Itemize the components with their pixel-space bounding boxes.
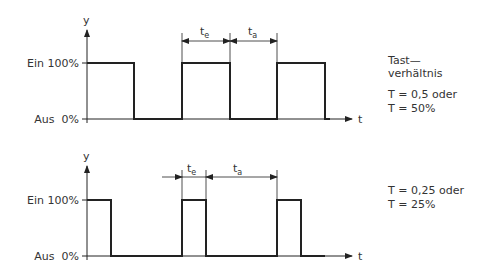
x-axis-label: t bbox=[358, 113, 363, 126]
pulse-diagrams: y t Ein 100% Aus 0% te ta y t Ein 100% A… bbox=[0, 0, 498, 274]
ta-label: ta bbox=[233, 162, 242, 177]
duty-cycle-bottom-line-1: T = 0,25 oder bbox=[388, 184, 464, 198]
y-low-label: Aus 0% bbox=[34, 113, 79, 126]
duty-cycle-top-line-1: T = 0,5 oder bbox=[388, 88, 457, 102]
chart-bottom: y t Ein 100% Aus 0% te ta bbox=[27, 150, 363, 263]
x-axis-label: t bbox=[358, 250, 363, 263]
y-axis-label: y bbox=[83, 150, 90, 163]
duty-cycle-bottom-line-2: T = 25% bbox=[388, 198, 435, 212]
duty-cycle-title-1: Tast— bbox=[388, 54, 421, 68]
chart-top: y t Ein 100% Aus 0% te ta bbox=[27, 14, 363, 126]
pulse-signal bbox=[87, 63, 330, 119]
y-axis-label: y bbox=[83, 14, 90, 27]
te-label: te bbox=[200, 25, 209, 40]
ta-label: ta bbox=[248, 25, 257, 40]
y-low-label: Aus 0% bbox=[34, 250, 79, 263]
y-high-label: Ein 100% bbox=[27, 57, 79, 70]
te-label: te bbox=[187, 162, 196, 177]
duty-cycle-top-line-2: T = 50% bbox=[388, 102, 435, 116]
y-high-label: Ein 100% bbox=[27, 194, 79, 207]
duty-cycle-title-2: verhältnis bbox=[388, 67, 442, 81]
pulse-signal bbox=[87, 200, 325, 256]
